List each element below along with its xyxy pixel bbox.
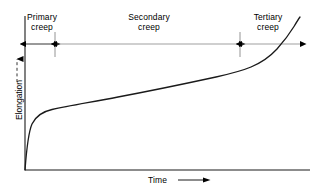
time-axis-label: Time [148, 175, 167, 185]
stage-label-primary-line1: Primary [27, 12, 57, 22]
creep-curve-figure: Primary creep Secondary creep Tertiary c… [0, 0, 318, 192]
stage-label-tertiary-line2: creep [257, 22, 279, 32]
elongation-axis-label: Elongation [14, 65, 24, 135]
stage-label-secondary-line2: creep [138, 22, 160, 32]
stage-label-primary-line2: creep [31, 22, 53, 32]
stage-label-tertiary: Tertiary creep [244, 12, 292, 32]
stage-label-tertiary-line1: Tertiary [254, 12, 283, 22]
stage-label-primary: Primary creep [22, 12, 62, 32]
creep-curve-path [25, 17, 300, 170]
stage-label-secondary-line1: Secondary [128, 12, 170, 22]
stage-label-secondary: Secondary creep [118, 12, 180, 32]
